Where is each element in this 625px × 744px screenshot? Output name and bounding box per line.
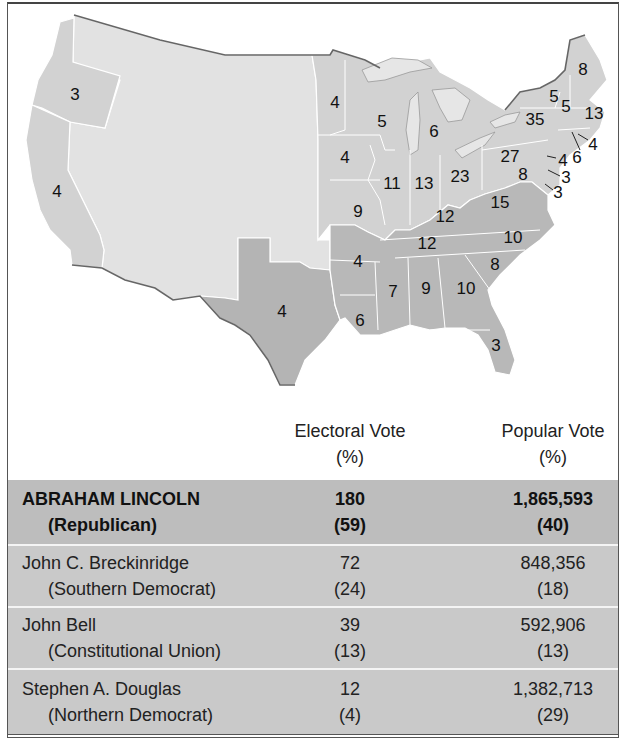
popular-pct: (13) [478,638,625,664]
ev-label-mississippi: 7 [388,282,397,302]
ev-label-michigan: 6 [429,122,438,142]
ev-label-minnesota: 4 [330,93,339,113]
electoral-vote-header: Electoral Vote (%) [270,418,430,470]
ev-label-florida: 3 [491,336,500,356]
ev-label-indiana: 13 [415,174,434,194]
ev-label-iowa: 4 [340,148,349,168]
ev-label-maine: 8 [578,60,587,80]
popular-votes: 592,906 [478,612,625,638]
candidate-party: (Republican) [48,512,157,538]
candidate-row-lincoln: ABRAHAM LINCOLN (Republican) 180 (59) 1,… [8,480,618,544]
ev-label-rhode-island: 4 [588,135,597,155]
ev-label-missouri: 9 [353,202,362,222]
popular-vote-header-unit: (%) [478,444,625,470]
electoral-pct: (59) [270,512,430,538]
electoral-votes: 72 [270,550,430,576]
ev-label-arkansas: 4 [353,252,362,272]
electoral-pct: (13) [270,638,430,664]
ev-label-maryland: 8 [518,165,527,185]
electoral-votes: 39 [270,612,430,638]
ev-label-new-hampshire: 5 [561,97,570,117]
popular-votes: 1,865,593 [478,486,625,512]
candidate-row-bell: John Bell (Constitutional Union) 39 (13)… [8,606,618,668]
candidate-party: (Constitutional Union) [48,638,221,664]
ev-label-pennsylvania: 27 [501,147,520,167]
candidate-row-douglas: Stephen A. Douglas (Northern Democrat) 1… [8,668,618,735]
candidate-name: ABRAHAM LINCOLN [22,486,200,512]
ev-label-texas: 4 [277,302,286,322]
ev-label-illinois: 11 [383,174,401,194]
ev-label-north-carolina: 10 [504,228,523,248]
ev-label-georgia: 10 [457,279,476,299]
candidate-name: John C. Breckinridge [22,550,189,576]
electoral-pct: (24) [270,576,430,602]
popular-votes: 848,356 [478,550,625,576]
map-shapes [0,0,625,400]
popular-pct: (18) [478,576,625,602]
ev-label-tennessee: 12 [418,234,437,254]
ev-label-massachusetts: 13 [585,104,604,124]
popular-vote-header-label: Popular Vote [478,418,625,444]
electoral-vote-header-unit: (%) [270,444,430,470]
candidate-name: John Bell [22,612,96,638]
electoral-vote-header-label: Electoral Vote [270,418,430,444]
popular-pct: (40) [478,512,625,538]
popular-pct: (29) [478,702,625,728]
popular-votes: 1,382,713 [478,676,625,702]
electoral-pct: (4) [270,702,430,728]
ev-label-california: 4 [52,182,61,202]
popular-vote-header: Popular Vote (%) [478,418,625,470]
candidate-name: Stephen A. Douglas [22,676,181,702]
ev-label-louisiana: 6 [355,311,364,331]
us-map-1860: 3 4 4 4 5 6 4 11 13 23 27 35 5 5 8 13 4 … [0,0,625,400]
ev-label-connecticut: 6 [572,148,581,168]
electoral-votes: 180 [270,486,430,512]
ev-label-vermont: 5 [549,87,558,107]
ev-label-new-york: 35 [526,110,545,130]
ev-label-wisconsin: 5 [377,112,386,132]
electoral-votes: 12 [270,676,430,702]
ev-label-oregon: 3 [70,85,79,105]
ev-label-kentucky: 12 [436,207,455,227]
ev-label-maryland-dc: 3 [553,183,562,203]
ev-label-ohio: 23 [451,167,470,187]
candidate-party: (Northern Democrat) [48,702,213,728]
candidate-row-breckinridge: John C. Breckinridge (Southern Democrat)… [8,544,618,606]
ev-label-virginia: 15 [491,193,510,213]
candidate-party: (Southern Democrat) [48,576,216,602]
territories-region [68,15,330,300]
ev-label-south-carolina: 8 [490,255,499,275]
ev-label-alabama: 9 [421,279,430,299]
